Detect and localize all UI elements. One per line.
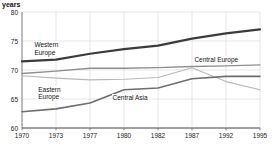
chart-plot-area	[0, 0, 274, 151]
x-tick-label: 1980	[107, 132, 141, 139]
x-tick-label: 1987	[175, 132, 209, 139]
y-tick-label: 65	[0, 96, 18, 103]
annotation-central-asia: Central Asia	[112, 94, 149, 102]
y-tick-label: 60	[0, 125, 18, 132]
y-tick-label: 70	[0, 67, 18, 74]
x-tick-label: 1992	[209, 132, 243, 139]
chart-figure: years 8075706560 19701973197719801982198…	[0, 0, 274, 151]
y-tick-label: 75	[0, 38, 18, 45]
x-tick-label: 1982	[141, 132, 175, 139]
x-tick-label: 1973	[39, 132, 73, 139]
gridlines	[22, 12, 260, 128]
annotation-western-europe: Western Europe	[33, 41, 59, 56]
x-tick-label: 1970	[5, 132, 39, 139]
annotation-eastern-europe: Eastern Europe	[37, 86, 61, 101]
x-tick-label: 1995	[243, 132, 274, 139]
annotation-central-europe: Central Europe	[193, 56, 239, 64]
x-tick-label: 1977	[73, 132, 107, 139]
y-tick-label: 80	[0, 9, 18, 16]
series-line-central-europe	[22, 65, 260, 74]
